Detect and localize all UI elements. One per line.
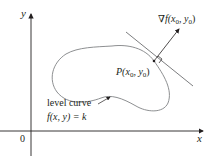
x-axis-label: x (196, 132, 202, 144)
y-axis-label: y (20, 7, 26, 19)
gradient-level-curve-diagram: y x 0 ∇f(x0, y0) P(x0, y0) level curve f… (0, 0, 223, 156)
equation-label: f(x, y) = k (47, 111, 87, 123)
origin-label: 0 (20, 133, 25, 144)
point-label: P(x0, y0) (115, 66, 150, 79)
gradient-vector (154, 29, 179, 61)
gradient-label: ∇f(x0, y0) (158, 13, 195, 26)
point-p (153, 60, 156, 63)
tangent-line (126, 32, 193, 86)
level-curve-label: level curve (47, 97, 92, 108)
